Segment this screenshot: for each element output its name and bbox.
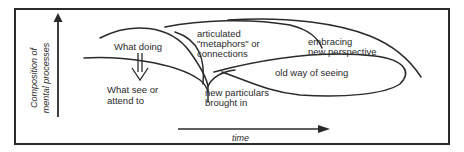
time-axis-arrow: [178, 125, 330, 133]
label-old-way: old way of seeing: [275, 68, 348, 78]
what-doing-arc: [100, 28, 208, 86]
label-articulated-line3: connections: [197, 49, 260, 59]
label-embracing: embracing new perspective: [308, 37, 377, 57]
label-new-particulars-line2: brought in: [205, 98, 269, 108]
y-axis-label-line1: Composition of: [28, 23, 40, 133]
label-articulated: articulated "metaphors" or connections: [197, 29, 260, 59]
x-axis-label: time: [232, 133, 249, 143]
double-down-arrow: [132, 53, 148, 80]
label-what-doing: What doing: [114, 42, 162, 52]
label-embracing-line2: new perspective: [308, 47, 377, 57]
label-what-see: What see or attend to: [107, 85, 158, 106]
label-what-see-line2: attend to: [107, 96, 158, 106]
diagram-curves: [0, 0, 464, 152]
y-axis-arrow: [54, 13, 63, 117]
label-new-particulars: new particulars brought in: [205, 88, 269, 108]
y-axis-label: Composition of mental processes: [28, 23, 52, 133]
label-what-see-line1: What see or: [107, 85, 158, 95]
y-axis-label-line2: mental processes: [40, 23, 52, 133]
